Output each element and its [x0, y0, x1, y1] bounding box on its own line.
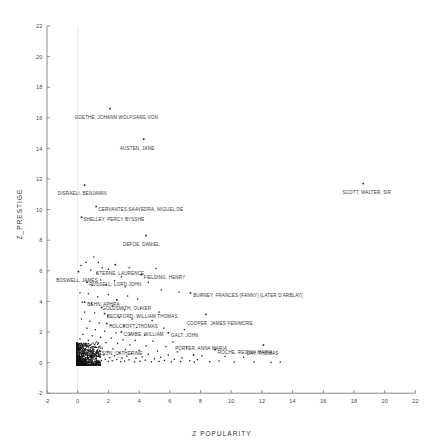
point-label: CUTHBERTSON, CATHERINE: [76, 351, 142, 356]
data-point: [145, 360, 146, 361]
data-point-dense: [100, 346, 101, 347]
data-point: [92, 346, 93, 347]
data-point: [84, 311, 85, 312]
y-tick-label: 6: [39, 268, 42, 274]
data-point: [92, 335, 93, 336]
point-label: GOETHE, JOHANN WOLFGANG VON: [75, 115, 158, 120]
point-label: DAY, THOMAS: [247, 351, 279, 356]
data-point: [112, 348, 113, 349]
x-tick-label: 10: [228, 398, 235, 404]
data-point-dense: [77, 362, 78, 363]
data-point: [108, 294, 109, 295]
data-point-dense: [83, 345, 84, 346]
data-point: [100, 279, 101, 280]
point-label: HOLCROFT, THOMAS: [109, 324, 158, 329]
point-label: RUSSELL, LORD JOHN: [89, 282, 141, 287]
data-point-dense: [90, 345, 91, 346]
data-point: [174, 359, 175, 360]
x-tick-label: 16: [320, 398, 327, 404]
data-point: [88, 293, 89, 294]
point-label: GOLDSMITH, OLIVER: [102, 306, 151, 311]
data-point: [218, 360, 219, 361]
y-axis-title: Z_PRESTIGE: [16, 189, 24, 240]
y-tick-label: 22: [36, 23, 43, 29]
data-point-dense: [95, 358, 96, 359]
data-point: [151, 361, 152, 362]
data-point: [160, 357, 161, 358]
data-point-dense: [81, 343, 82, 344]
data-point-dense: [83, 343, 84, 344]
data-point-dense: [76, 344, 77, 345]
data-point-dense: [76, 362, 77, 363]
data-point: [122, 339, 123, 340]
data-point-labeled: [167, 332, 169, 334]
data-point: [96, 341, 97, 342]
data-point: [105, 359, 106, 360]
data-point: [164, 360, 165, 361]
data-point-dense: [79, 348, 80, 349]
data-point: [177, 351, 178, 352]
point-label: AUSTEN, JANE: [120, 146, 154, 151]
data-point: [171, 361, 172, 362]
data-point: [148, 282, 149, 283]
data-point-dense: [89, 362, 90, 363]
data-point-labeled: [109, 108, 111, 110]
x-tick-label: 12: [259, 398, 266, 404]
data-point-labeled: [145, 235, 147, 237]
point-label: SCOTT, WALTER, SIR: [342, 190, 391, 195]
data-point: [194, 361, 195, 362]
data-point-dense: [82, 348, 83, 349]
data-point-dense: [87, 364, 88, 365]
data-point-labeled: [190, 292, 192, 294]
data-point: [122, 357, 123, 358]
scatter-plot-figure: -202468101214161820222220181614121086420…: [0, 0, 444, 448]
data-point: [82, 334, 83, 335]
data-point: [81, 318, 82, 319]
data-point: [102, 347, 103, 348]
data-point-dense: [86, 357, 87, 358]
data-point-dense: [81, 356, 82, 357]
data-point-dense: [93, 359, 94, 360]
data-point: [254, 361, 255, 362]
x-tick-label: 20: [381, 398, 388, 404]
data-point: [152, 341, 153, 342]
data-point-dense: [95, 361, 96, 362]
data-point-dense: [86, 359, 87, 360]
data-point-dense: [88, 358, 89, 359]
x-tick-label: 14: [289, 398, 296, 404]
data-point-labeled: [104, 313, 106, 315]
y-tick-label: 12: [36, 176, 43, 182]
data-point: [180, 361, 181, 362]
data-point: [82, 302, 83, 303]
data-point-dense: [88, 347, 89, 348]
data-point: [178, 292, 179, 293]
data-point-dense: [98, 342, 99, 343]
y-tick-label: -2: [37, 390, 42, 396]
data-point-dense: [97, 356, 98, 357]
data-point-dense: [100, 348, 101, 349]
data-point-dense: [97, 361, 98, 362]
x-tick-label: 0: [76, 398, 79, 404]
data-point: [234, 361, 235, 362]
data-point: [158, 311, 159, 312]
data-point-labeled: [106, 323, 108, 325]
data-point: [280, 361, 281, 362]
data-point-labeled: [91, 361, 93, 363]
data-point-dense: [79, 362, 80, 363]
data-point-dense: [99, 360, 100, 361]
data-point-dense: [88, 346, 89, 347]
data-point: [158, 361, 159, 362]
point-label: DEFOE, DANIEL: [123, 242, 160, 247]
data-point: [137, 298, 138, 299]
point-label: COOPER, JAMES FENIMORE: [187, 321, 253, 326]
data-point: [135, 358, 136, 359]
data-point: [168, 354, 169, 355]
data-point: [101, 360, 102, 361]
data-point-dense: [91, 364, 92, 365]
y-tick-label: 14: [36, 146, 43, 152]
data-point: [117, 343, 118, 344]
data-point-dense: [77, 347, 78, 348]
data-point: [201, 355, 202, 356]
data-point-dense: [96, 364, 97, 365]
data-point-labeled: [84, 184, 86, 186]
